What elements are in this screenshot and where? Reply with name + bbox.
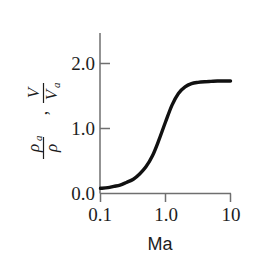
- x-tick-label-0-1: 0.1: [88, 204, 112, 225]
- density-denominator-rho: ρ: [42, 144, 61, 153]
- x-axis-ticks: [101, 194, 231, 203]
- y-axis-label: ρ a ρ , V V a: [24, 82, 62, 159]
- velocity-denominator-subscript: a: [50, 82, 62, 88]
- y-tick-label-1-0: 1.0: [71, 118, 95, 139]
- x-axis-title: Ma: [147, 234, 173, 254]
- y-tick-label-2-0: 2.0: [71, 53, 95, 74]
- velocity-numerator-v: V: [24, 85, 43, 98]
- data-curve-mach-ratio: [101, 81, 231, 188]
- y-axis-label-density-ratio: ρ a ρ: [24, 135, 61, 159]
- x-axis-tick-labels: 0.1 1.0 10: [88, 204, 240, 225]
- y-axis-label-separator: ,: [31, 111, 51, 116]
- chart-plot: ρ a ρ , V V a: [0, 0, 259, 267]
- y-axis-label-velocity-ratio: V V a: [24, 82, 62, 103]
- figure-container: ρ a ρ , V V a: [0, 0, 259, 267]
- density-numerator-rho: ρ: [24, 144, 43, 153]
- y-axis-tick-labels: 2.0 1.0 0.0: [71, 53, 95, 204]
- density-numerator-subscript: a: [32, 135, 44, 141]
- x-tick-label-10: 10: [222, 204, 241, 225]
- x-tick-label-1-0: 1.0: [154, 204, 178, 225]
- y-axis-ticks: [100, 64, 110, 129]
- label-comma: ,: [31, 111, 51, 116]
- velocity-denominator-v: V: [42, 87, 61, 100]
- y-tick-label-0-0: 0.0: [71, 183, 95, 204]
